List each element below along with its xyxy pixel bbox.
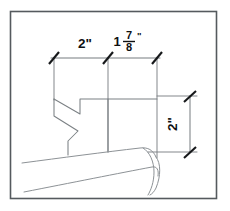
dimension-label-horizontal-left: 2"	[78, 36, 92, 51]
fraction-denominator: 8	[126, 41, 132, 53]
drawing-svg-surface: 2" 1 7 8 " 2"	[0, 0, 230, 211]
dimension-label-vertical-right: 2"	[165, 117, 180, 131]
fraction-inch-mark: "	[137, 30, 142, 41]
technical-drawing-canvas: 2" 1 7 8 " 2"	[0, 0, 230, 211]
fraction-whole-number: 1	[113, 34, 120, 49]
fraction-numerator: 7	[126, 29, 132, 41]
